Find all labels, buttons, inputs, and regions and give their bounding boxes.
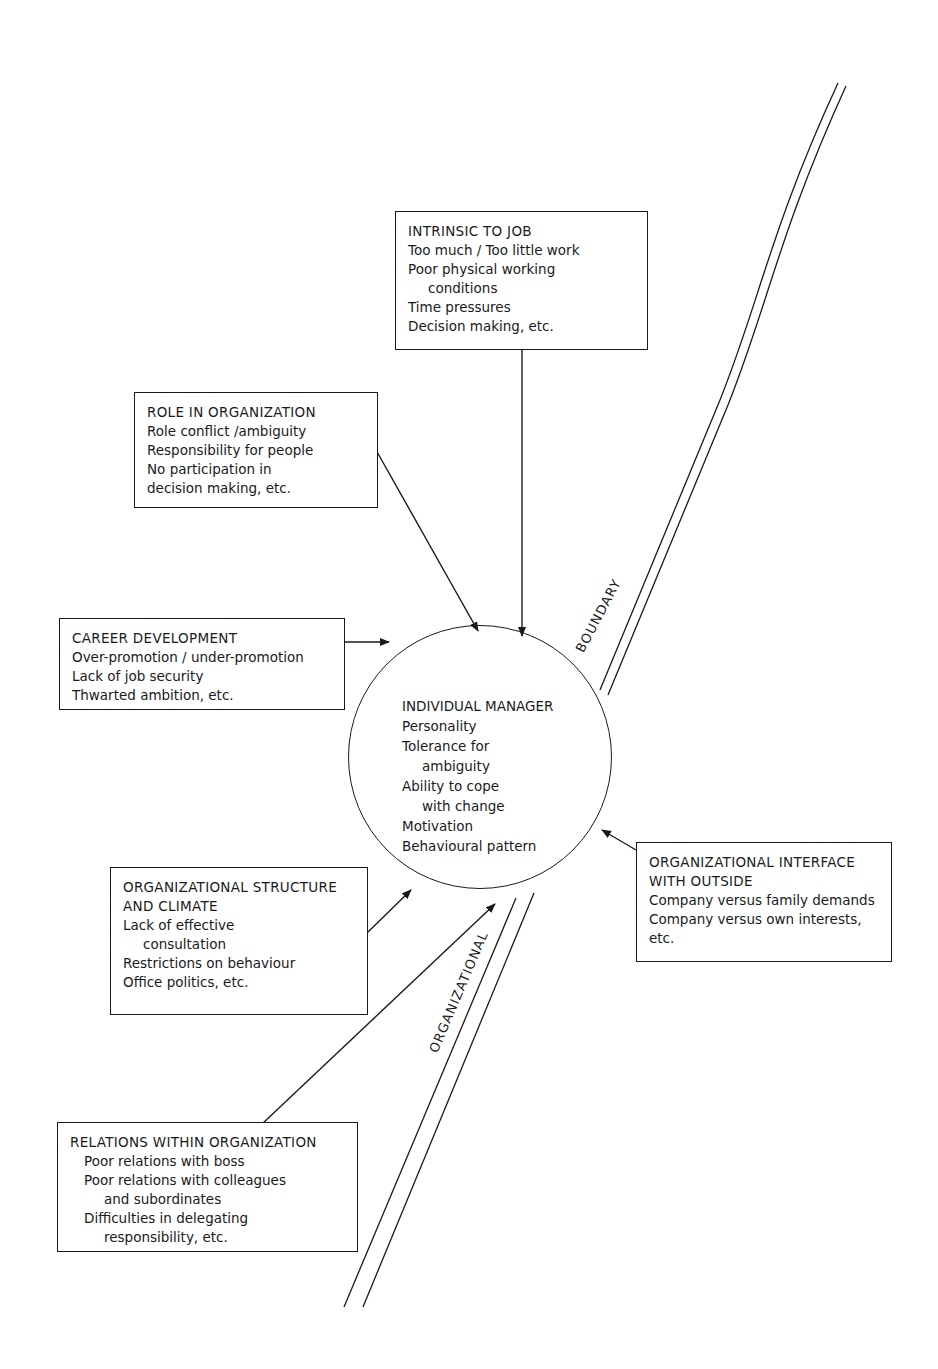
box-item: Restrictions on behaviour [123, 954, 357, 973]
circle-item: Motivation [402, 816, 553, 836]
box-career-development: CAREER DEVELOPMENT Over-promotion / unde… [59, 618, 345, 710]
box-item: Responsibility for people [147, 441, 367, 460]
box-title: WITH OUTSIDE [649, 872, 881, 891]
box-item: and subordinates [70, 1190, 347, 1209]
box-title: INTRINSIC TO JOB [408, 222, 637, 241]
box-role-in-organization: ROLE IN ORGANIZATION Role conflict /ambi… [134, 392, 378, 508]
box-relations-within-organization: RELATIONS WITHIN ORGANIZATION Poor relat… [57, 1122, 358, 1252]
box-item: No participation in [147, 460, 367, 479]
box-item: Too much / Too little work [408, 241, 637, 260]
box-item: etc. [649, 929, 881, 948]
box-intrinsic-to-job: INTRINSIC TO JOB Too much / Too little w… [395, 211, 648, 350]
box-item: Difficulties in delegating [70, 1209, 347, 1228]
circle-item: Personality [402, 716, 553, 736]
individual-manager-text: INDIVIDUAL MANAGER Personality Tolerance… [402, 696, 553, 856]
circle-item: ambiguity [402, 756, 553, 776]
box-item: Poor relations with boss [70, 1152, 347, 1171]
arrow-interface [602, 830, 636, 850]
box-item: Company versus own interests, [649, 910, 881, 929]
box-item: Over-promotion / under-promotion [72, 648, 334, 667]
box-item: Lack of effective [123, 916, 357, 935]
box-item: Poor relations with colleagues [70, 1171, 347, 1190]
box-organizational-structure: ORGANIZATIONAL STRUCTURE AND CLIMATE Lac… [110, 867, 368, 1015]
box-item: Thwarted ambition, etc. [72, 686, 334, 705]
box-item: responsibility, etc. [70, 1228, 347, 1247]
boundary-lower-line-a [344, 898, 516, 1307]
box-organizational-interface: ORGANIZATIONAL INTERFACE WITH OUTSIDE Co… [636, 842, 892, 962]
boundary-lower-line-b [363, 893, 534, 1307]
circle-item: Tolerance for [402, 736, 553, 756]
box-title: CAREER DEVELOPMENT [72, 629, 334, 648]
box-title: RELATIONS WITHIN ORGANIZATION [70, 1133, 347, 1152]
box-item: Decision making, etc. [408, 317, 637, 336]
box-title: AND CLIMATE [123, 897, 357, 916]
circle-item: Ability to cope [402, 776, 553, 796]
box-item: consultation [123, 935, 357, 954]
box-item: Company versus family demands [649, 891, 881, 910]
arrow-structure [367, 890, 411, 933]
arrow-role [376, 450, 478, 631]
box-title: ROLE IN ORGANIZATION [147, 403, 367, 422]
boundary-upper-line-a [600, 83, 838, 690]
box-item: Lack of job security [72, 667, 334, 686]
box-item: conditions [408, 279, 637, 298]
box-title: ORGANIZATIONAL STRUCTURE [123, 878, 357, 897]
box-item: Poor physical working [408, 260, 637, 279]
circle-item: Behavioural pattern [402, 836, 553, 856]
circle-item: with change [402, 796, 553, 816]
box-item: Role conflict /ambiguity [147, 422, 367, 441]
circle-title: INDIVIDUAL MANAGER [402, 696, 553, 716]
box-title: ORGANIZATIONAL INTERFACE [649, 853, 881, 872]
boundary-upper-line-b [608, 86, 846, 695]
box-item: decision making, etc. [147, 479, 367, 498]
box-item: Office politics, etc. [123, 973, 357, 992]
box-item: Time pressures [408, 298, 637, 317]
